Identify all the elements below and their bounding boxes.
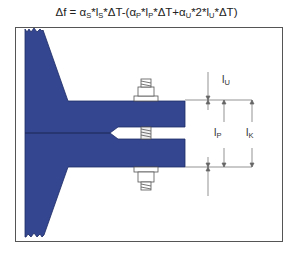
label-lk: lK: [246, 126, 253, 140]
label-lp: lP: [214, 126, 221, 140]
label-lu: lU: [222, 73, 230, 87]
